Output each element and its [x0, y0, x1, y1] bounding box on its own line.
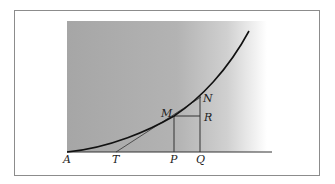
label-m: M	[160, 107, 173, 120]
geometry-figure: A T P Q M N R	[0, 0, 335, 184]
label-n: N	[202, 92, 213, 105]
label-q: Q	[196, 153, 205, 166]
label-r: R	[203, 111, 212, 124]
label-p: P	[169, 153, 178, 166]
label-a: A	[62, 153, 71, 166]
shaded-region	[67, 21, 267, 152]
